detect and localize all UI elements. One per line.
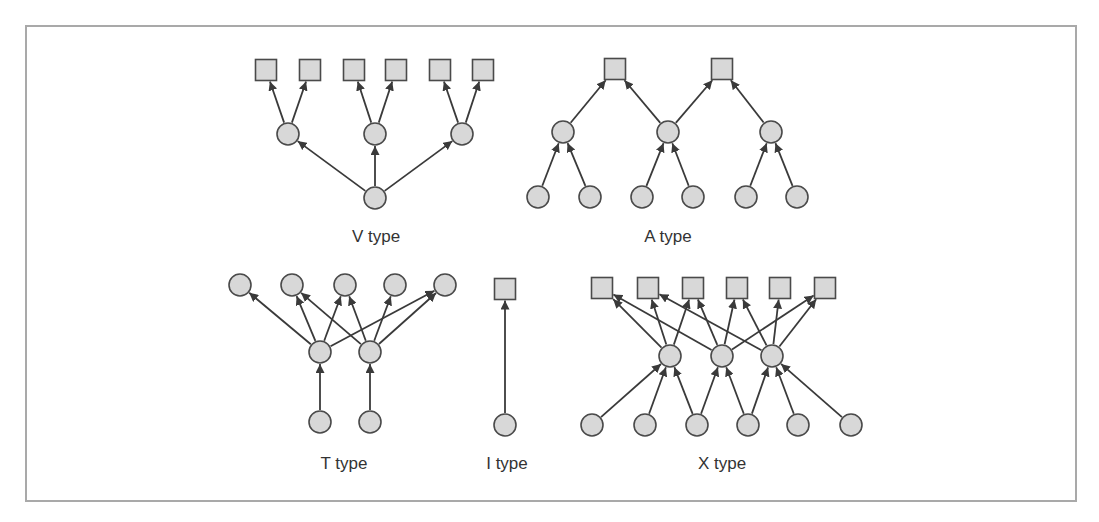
v-type-edge-arrow [466,81,480,122]
x-type-circle-node [761,345,783,367]
i-type-circle-node [494,414,516,436]
x-type-edge-arrow [701,367,718,413]
t-type-circle-node [434,274,456,296]
a-type-edge-arrow [672,143,688,186]
x-type-square-node [592,278,613,299]
t-type-circle-node [359,341,381,363]
x-type-label: X type [698,454,746,473]
t-type-label: T type [321,454,368,473]
a-type-square-node [712,59,733,80]
x-type-circle-node [787,414,809,436]
v-type-edge-arrow [358,81,372,122]
x-type-edge-arrow [674,367,692,414]
a-type-edge-arrow [676,80,713,123]
edges-layer [249,80,842,417]
x-type-square-node [683,278,704,299]
x-type-square-node [770,278,791,299]
x-type-circle-node [711,345,733,367]
v-type-edge-arrow [385,141,453,191]
nodes-layer [229,59,862,437]
t-type-circle-node [359,411,381,433]
a-type-edge-arrow [775,143,792,186]
x-type-edge-arrow [649,367,666,413]
v-type-circle-node [277,123,299,145]
a-type-edge-arrow [568,143,586,186]
x-type-circle-node [686,414,708,436]
i-type-square-node [495,279,516,300]
x-type-edge-arrow [601,364,661,417]
v-type-square-node [344,60,365,81]
a-type-circle-node [786,186,808,208]
a-type-circle-node [760,121,782,143]
v-type-square-node [430,60,451,81]
t-type-circle-node [334,274,356,296]
x-type-edge-arrow [726,367,744,414]
a-type-circle-node [579,186,601,208]
x-type-circle-node [737,414,759,436]
a-type-edge-arrow [624,80,660,123]
v-type-label: V type [352,227,400,246]
v-type-circle-node [364,123,386,145]
x-type-edge-arrow [776,367,794,414]
x-type-square-node [727,278,748,299]
t-type-edge-arrow [374,296,391,341]
a-type-edge-arrow [750,143,766,186]
labels-layer: V typeA typeT typeI typeX type [321,227,747,473]
a-type-edge-arrow [731,80,764,122]
x-type-edge-arrow [698,299,717,345]
t-type-edge-arrow [301,293,361,344]
x-type-edge-arrow [725,299,735,344]
x-type-square-node [638,278,659,299]
x-type-square-node [815,278,836,299]
t-type-edge-arrow [324,296,341,341]
x-type-edge-arrow [743,299,767,345]
diagram-canvas: V typeA typeT typeI typeX type [0,0,1099,522]
a-type-edge-arrow [542,143,558,186]
v-type-square-node [256,60,277,81]
x-type-circle-node [659,345,681,367]
x-type-circle-node [581,414,603,436]
v-type-square-node [386,60,407,81]
x-type-edge-arrow [652,299,667,344]
t-type-edge-arrow [379,293,436,344]
a-type-circle-node [657,121,679,143]
x-type-edge-arrow [613,294,711,350]
x-type-circle-node [634,414,656,436]
a-type-circle-node [735,186,757,208]
a-type-edge-arrow [646,143,663,186]
a-type-square-node [605,59,626,80]
v-type-circle-node [451,123,473,145]
x-type-edge-arrow [752,367,768,413]
t-type-circle-node [281,274,303,296]
v-type-edge-arrow [270,81,284,122]
a-type-circle-node [527,186,549,208]
v-type-square-node [473,60,494,81]
v-type-edge-arrow [292,81,306,122]
a-type-circle-node [682,186,704,208]
t-type-circle-node [309,341,331,363]
a-type-edge-arrow [571,80,606,122]
v-type-edge-arrow [298,141,366,191]
x-type-edge-arrow [781,364,842,417]
v-type-circle-node [364,187,386,209]
t-type-circle-node [309,411,331,433]
v-type-edge-arrow [379,81,393,122]
t-type-circle-node [229,274,251,296]
a-type-circle-node [552,121,574,143]
t-type-edge-arrow [249,293,311,345]
v-type-edge-arrow [444,81,458,122]
a-type-circle-node [631,186,653,208]
i-type-label: I type [486,454,528,473]
t-type-circle-node [384,274,406,296]
a-type-label: A type [644,227,691,246]
x-type-circle-node [840,414,862,436]
v-type-square-node [300,60,321,81]
